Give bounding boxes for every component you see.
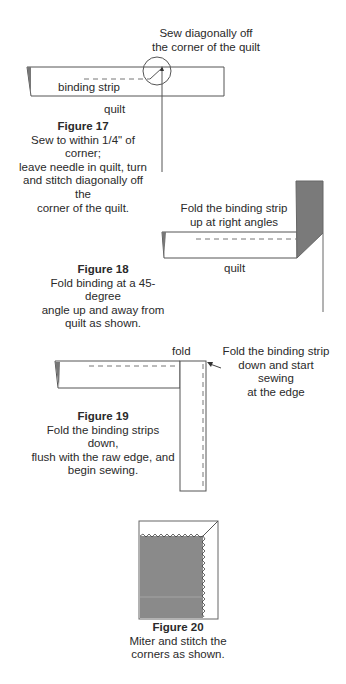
fig19-caption-line: flush with the raw edge, and bbox=[30, 451, 176, 465]
fig18-caption: Figure 18 Fold binding at a 45-degree an… bbox=[38, 263, 168, 331]
fig17-title: Figure 17 bbox=[18, 120, 148, 134]
diagram-canvas bbox=[0, 0, 346, 684]
fig17-callout: Sew diagonally off the corner of the qui… bbox=[148, 27, 264, 54]
fig19-caption: Figure 19 Fold the binding strips down, … bbox=[30, 410, 176, 478]
fig19-caption-line: Fold the binding strips down, bbox=[30, 424, 176, 451]
fig17-quilt-label: quilt bbox=[104, 103, 125, 117]
fig19-title: Figure 19 bbox=[30, 410, 176, 424]
fig18-callout-line: Fold the binding strip bbox=[176, 202, 292, 216]
fig17-caption-line: Sew to within 1/4" of corner; bbox=[18, 134, 148, 161]
fig19-callout-line: at the edge bbox=[212, 386, 340, 400]
fig17-callout-line: Sew diagonally off bbox=[148, 27, 264, 41]
fig19-fold-label: fold bbox=[172, 345, 191, 359]
fig17-caption-line: and stitch diagonally off the bbox=[18, 174, 148, 201]
fig20-caption: Figure 20 Miter and stitch the corners a… bbox=[118, 621, 238, 662]
fig18-binding-strip bbox=[162, 232, 297, 258]
fig20-quilt-area bbox=[140, 536, 203, 618]
fig19-caption-line: begin sewing. bbox=[30, 464, 176, 478]
fig17-binding-strip bbox=[27, 67, 224, 96]
fig19-callout-line: sewing bbox=[212, 372, 340, 386]
fig17-callout-line: the corner of the quilt bbox=[148, 41, 264, 55]
fig17-caption-line: leave needle in quilt, turn bbox=[18, 161, 148, 175]
fig19-callout-line: down and start bbox=[212, 359, 340, 373]
fig18-callout: Fold the binding strip up at right angle… bbox=[176, 202, 292, 229]
fig18-quilt-label: quilt bbox=[224, 262, 245, 276]
fig20-caption-line: Miter and stitch the bbox=[118, 635, 238, 649]
fig19-vertical-strip bbox=[180, 361, 206, 491]
fig19-horizontal-strip bbox=[55, 361, 180, 388]
fig17-caption: Figure 17 Sew to within 1/4" of corner; … bbox=[18, 120, 148, 215]
fig18-title: Figure 18 bbox=[38, 263, 168, 277]
fig18-folded-strip bbox=[296, 181, 323, 258]
figure18-drawing bbox=[162, 181, 323, 312]
fig19-callout-line: Fold the binding strip bbox=[212, 345, 340, 359]
fig20-title: Figure 20 bbox=[118, 621, 238, 635]
fig20-caption-line: corners as shown. bbox=[118, 648, 238, 662]
figure20-drawing bbox=[139, 521, 218, 619]
fig18-callout-line: up at right angles bbox=[176, 216, 292, 230]
fig17-caption-line: corner of the quilt. bbox=[18, 202, 148, 216]
fig18-caption-line: Fold binding at a 45-degree bbox=[38, 277, 168, 304]
fig17-strip-label: binding strip bbox=[58, 81, 120, 95]
fig19-callout: Fold the binding strip down and start se… bbox=[212, 345, 340, 399]
fig18-caption-line: angle up and away from bbox=[38, 304, 168, 318]
fig18-caption-line: quilt as shown. bbox=[38, 317, 168, 331]
